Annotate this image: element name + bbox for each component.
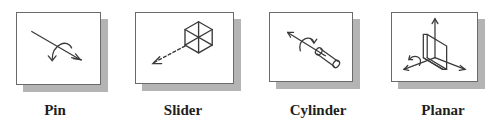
cylinder-label: Cylinder [263,102,373,119]
cylinder-joint-icon [269,12,353,82]
pin-label: Pin [0,102,110,119]
planar-joint-icon [391,12,478,82]
pin-joint-icon [16,12,101,85]
slider-joint-icon [135,12,234,84]
planar-label: Planar [388,102,492,119]
slider-label: Slider [128,102,238,119]
